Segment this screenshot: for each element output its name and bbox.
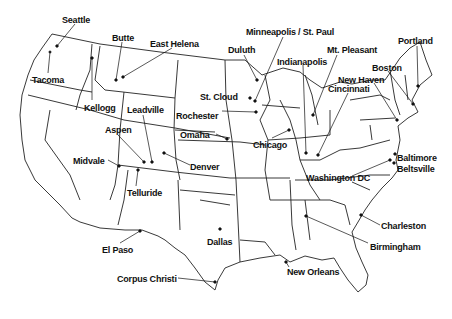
city-label-dallas: Dallas — [207, 237, 232, 247]
us-map: SeattleTacomaButteEast HelenaKelloggLead… — [0, 0, 452, 319]
city-label-denver: Denver — [190, 162, 219, 172]
city-label-telluride: Telluride — [127, 188, 162, 198]
city-label-baltimore: Baltimore — [397, 153, 437, 163]
city-label-corpus-christi: Corpus Christi — [117, 274, 177, 284]
city-label-new-haven: New Haven — [338, 75, 384, 85]
city-label-east-helena: East Helena — [150, 39, 199, 49]
city-label-cincinnati: Cincinnati — [328, 84, 370, 94]
city-label-st-cloud: St. Cloud — [200, 92, 238, 102]
city-label-birmingham: Birmingham — [370, 242, 421, 252]
city-label-tacoma: Tacoma — [32, 75, 64, 85]
city-label-charleston: Charleston — [381, 221, 426, 231]
city-label-indianapolis: Indianapolis — [277, 57, 327, 67]
city-label-new-orleans: New Orleans — [287, 267, 339, 277]
city-label-duluth: Duluth — [228, 45, 255, 55]
city-label-beltsville: Beltsville — [397, 164, 435, 174]
city-label-boston: Boston — [372, 63, 402, 73]
city-label-butte: Butte — [112, 33, 134, 43]
city-label-mt-pleasant: Mt. Pleasant — [327, 45, 377, 55]
city-label-minneapolis-st-paul: Minneapolis / St. Paul — [246, 27, 334, 37]
us-outline — [0, 0, 452, 319]
city-label-seattle: Seattle — [62, 15, 90, 25]
city-label-rochester: Rochester — [176, 111, 218, 121]
city-label-washington-dc: Washington DC — [306, 173, 370, 183]
city-label-kellogg: Kellogg — [84, 103, 116, 113]
city-label-midvale: Midvale — [73, 156, 105, 166]
city-label-omaha: Omaha — [180, 130, 210, 140]
city-label-el-paso: El Paso — [102, 245, 133, 255]
city-label-portland: Portland — [398, 36, 433, 46]
city-label-aspen: Aspen — [105, 125, 132, 135]
city-label-chicago: Chicago — [253, 140, 287, 150]
city-label-leadville: Leadville — [127, 105, 164, 115]
